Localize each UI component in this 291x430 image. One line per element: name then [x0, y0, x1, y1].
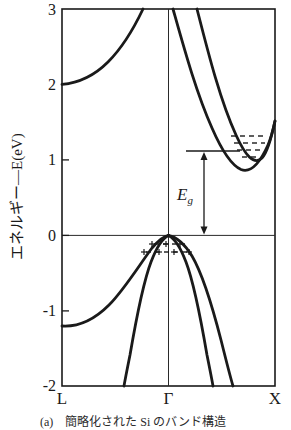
y-tick-label-0: 0 [48, 227, 56, 244]
conduction-band-gamma-to-X-upper [173, 9, 275, 170]
figure-caption: (a) 簡略化された Si のバンド構造 [40, 414, 226, 429]
valence-band-L-branch [62, 235, 169, 326]
x-tick-label-X: X [269, 389, 281, 408]
band-structure-plot: 3 2 1 0 -1 -2 エネルギー—E(eV) L Γ X [0, 0, 291, 430]
band-gap-arrowhead-down [201, 227, 208, 235]
y-axis-ticks [62, 84, 69, 311]
band-gap-arrow [201, 152, 208, 235]
y-axis-title: エネルギー—E(eV) [9, 133, 26, 260]
band-structure-figure: 3 2 1 0 -1 -2 エネルギー—E(eV) L Γ X [0, 0, 291, 430]
band-gap-label: Eg [176, 185, 193, 206]
conduction-band-L-branch [62, 9, 143, 84]
y-tick-label-neg1: -1 [43, 302, 56, 319]
valence-band-light-hole-right [169, 235, 214, 386]
valence-band-heavy-hole-right [169, 235, 234, 386]
y-axis-title-text: エネルギー—E(eV) [9, 133, 26, 260]
y-tick-label-neg2: -2 [43, 377, 56, 394]
band-gap-arrowhead-up [201, 152, 208, 160]
x-tick-label-L: L [57, 389, 67, 408]
y-tick-label-3: 3 [48, 1, 56, 18]
band-gap-label-sub: g [188, 194, 194, 206]
y-tick-label-2: 2 [48, 76, 56, 93]
band-gap-label-E: E [176, 185, 188, 204]
y-tick-label-1: 1 [48, 151, 56, 168]
conduction-band-gamma-to-X-lower [197, 9, 275, 161]
x-tick-label-gamma: Γ [164, 389, 174, 408]
